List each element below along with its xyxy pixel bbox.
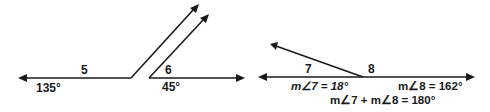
angle-6-measure: 45° [162, 80, 180, 94]
angle-5-label: 5 [81, 63, 88, 77]
angle-6-figure: 6 45° [149, 14, 245, 94]
angle-8-equation: m∠8 = 162° [398, 80, 463, 92]
arrowhead-left [18, 74, 27, 82]
ray-angle-7 [276, 46, 363, 77]
angle-5-measure: 135° [36, 81, 61, 95]
linear-pair-figure: 7 8 m∠7 = 18° m∠8 = 162° m∠7 + m∠8 = 180… [258, 42, 475, 106]
angle-8-label: 8 [368, 62, 375, 76]
ray-angle-5 [131, 9, 194, 78]
arrowhead-right [236, 74, 245, 82]
arrowhead-angle-7 [270, 42, 278, 50]
angle-7-label: 7 [305, 62, 312, 76]
arrowhead-line-left [258, 73, 267, 81]
sum-equation: m∠7 + m∠8 = 180° [330, 94, 436, 106]
angle-7-equation: m∠7 = 18° [291, 80, 349, 92]
angles-diagram: 5 135° 6 45° 7 8 m∠7 = 18° m∠8 = 162° m∠… [0, 0, 490, 112]
angle-6-label: 6 [165, 63, 172, 77]
arrowhead-line-right [466, 73, 475, 81]
